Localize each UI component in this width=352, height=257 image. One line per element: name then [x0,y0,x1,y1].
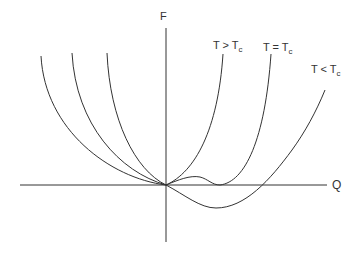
curve-at-tc [72,53,271,185]
label-above-tc: T > Tc [213,39,243,54]
curve-above-tc [107,53,223,185]
y-axis-label: F [160,10,167,22]
x-axis-label: Q [332,178,341,192]
diagram-svg [0,0,352,257]
label-below-tc: T < Tc [311,63,341,78]
label-at-tc: T = Tc [263,41,293,56]
free-energy-diagram: F Q T > Tc T = Tc T < Tc [0,0,352,257]
